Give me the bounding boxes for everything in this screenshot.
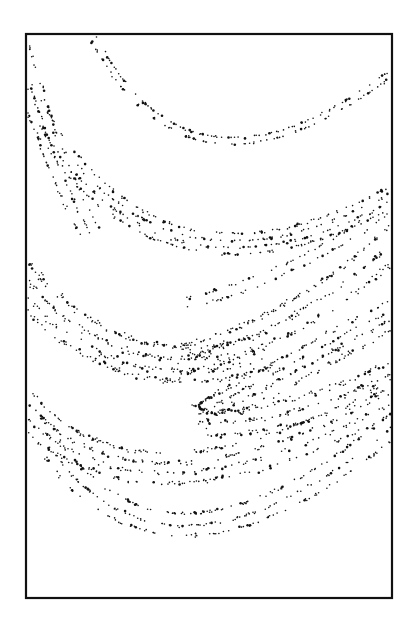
data-point bbox=[49, 323, 51, 325]
data-point bbox=[378, 317, 380, 319]
data-point bbox=[382, 407, 384, 409]
data-point bbox=[272, 341, 274, 343]
data-point bbox=[203, 356, 205, 358]
data-point bbox=[261, 445, 263, 447]
data-point bbox=[187, 354, 190, 357]
data-point bbox=[308, 250, 310, 252]
data-point bbox=[271, 365, 273, 367]
data-point bbox=[114, 331, 116, 333]
data-point bbox=[373, 393, 376, 396]
data-point bbox=[231, 395, 233, 397]
data-point bbox=[104, 362, 107, 365]
data-point bbox=[145, 450, 147, 452]
data-point bbox=[350, 238, 352, 240]
data-point bbox=[243, 337, 245, 339]
data-point bbox=[250, 432, 252, 434]
data-point bbox=[71, 427, 74, 430]
data-point bbox=[330, 421, 333, 424]
data-point bbox=[197, 367, 200, 370]
data-point bbox=[321, 414, 323, 416]
data-point bbox=[59, 342, 61, 344]
data-point bbox=[248, 395, 250, 397]
data-point bbox=[336, 210, 338, 212]
data-point bbox=[334, 440, 336, 442]
data-point bbox=[241, 232, 244, 235]
data-point bbox=[300, 309, 302, 311]
data-point bbox=[281, 275, 283, 277]
data-point bbox=[365, 371, 367, 373]
data-point bbox=[49, 142, 51, 144]
data-point bbox=[283, 369, 285, 371]
data-point bbox=[352, 226, 354, 228]
data-point bbox=[142, 100, 144, 102]
data-point bbox=[192, 353, 194, 355]
data-point bbox=[114, 517, 116, 519]
data-point bbox=[206, 412, 209, 415]
data-point bbox=[257, 286, 259, 288]
data-point bbox=[80, 233, 82, 235]
data-point bbox=[305, 375, 307, 377]
data-point bbox=[194, 471, 196, 473]
data-point bbox=[42, 274, 44, 276]
data-point bbox=[223, 246, 225, 248]
data-point bbox=[349, 379, 351, 381]
data-point bbox=[48, 140, 50, 142]
data-point bbox=[33, 129, 35, 131]
data-point bbox=[76, 183, 78, 185]
data-point bbox=[299, 256, 301, 258]
data-point bbox=[307, 442, 309, 444]
data-point bbox=[188, 249, 190, 251]
data-point bbox=[362, 348, 364, 350]
data-point bbox=[369, 321, 371, 323]
data-point bbox=[227, 386, 229, 388]
data-point bbox=[226, 341, 229, 344]
data-point bbox=[332, 222, 334, 224]
data-point bbox=[87, 356, 89, 358]
data-point bbox=[354, 399, 356, 401]
data-point bbox=[289, 460, 291, 462]
data-point bbox=[279, 368, 281, 370]
data-point bbox=[178, 226, 181, 229]
data-point bbox=[330, 275, 333, 278]
data-point bbox=[386, 213, 388, 215]
data-point bbox=[258, 371, 260, 373]
data-point bbox=[279, 137, 281, 139]
data-point bbox=[370, 368, 372, 370]
data-point bbox=[245, 289, 247, 291]
data-point bbox=[187, 344, 189, 346]
data-point bbox=[60, 446, 62, 448]
data-point bbox=[177, 525, 179, 527]
data-point bbox=[68, 462, 70, 464]
data-point bbox=[27, 309, 29, 311]
data-point bbox=[53, 151, 56, 154]
data-point bbox=[373, 423, 375, 425]
data-point bbox=[227, 353, 229, 355]
data-point bbox=[38, 274, 40, 276]
data-point bbox=[231, 464, 233, 466]
data-point bbox=[80, 157, 82, 159]
data-point bbox=[31, 91, 33, 93]
data-point bbox=[115, 68, 117, 70]
data-point bbox=[186, 534, 188, 536]
data-point bbox=[269, 342, 271, 344]
data-point bbox=[43, 156, 45, 158]
data-point bbox=[40, 138, 42, 140]
data-point bbox=[310, 302, 312, 304]
data-point bbox=[213, 395, 215, 397]
data-point bbox=[379, 77, 381, 79]
data-point bbox=[60, 340, 62, 342]
data-point bbox=[312, 118, 314, 120]
data-point bbox=[117, 494, 119, 496]
data-point bbox=[194, 473, 197, 476]
data-point bbox=[272, 362, 274, 364]
data-point bbox=[223, 363, 225, 365]
data-point bbox=[32, 393, 34, 395]
data-point bbox=[135, 93, 137, 95]
data-point bbox=[185, 347, 187, 349]
data-point bbox=[232, 445, 234, 447]
data-point bbox=[361, 207, 363, 209]
data-point bbox=[133, 365, 135, 367]
data-point bbox=[190, 345, 192, 347]
data-point bbox=[204, 352, 206, 354]
data-point bbox=[189, 236, 191, 238]
